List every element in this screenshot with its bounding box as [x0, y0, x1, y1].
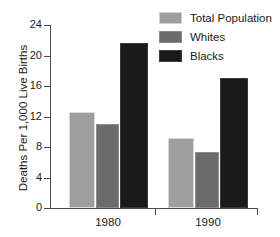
- y-tick-label-16: 16: [0, 79, 42, 91]
- x-tick-mid: [155, 209, 156, 215]
- bar-1980-whites: [96, 124, 119, 208]
- y-tick-label-8: 8: [0, 140, 42, 152]
- y-tick-20: [44, 56, 51, 57]
- legend-label-total-population: Total Population: [190, 12, 272, 24]
- bar-chart: Deaths Per 1,000 Live Births 24 20 16 12…: [0, 0, 280, 237]
- y-tick-16: [44, 86, 51, 87]
- y-tick-8: [44, 147, 51, 148]
- legend-item-blacks: Blacks: [159, 46, 272, 65]
- bar-1990-blacks: [220, 78, 248, 208]
- y-tick-label-24: 24: [0, 18, 42, 30]
- x-tick-right: [257, 209, 258, 215]
- legend-swatch-icon-total-population: [159, 12, 182, 24]
- legend-label-whites: Whites: [190, 31, 225, 43]
- legend-item-total-population: Total Population: [159, 8, 272, 27]
- bar-1990-whites: [195, 152, 219, 208]
- y-tick-label-12: 12: [0, 110, 42, 122]
- y-tick-24: [44, 25, 51, 26]
- y-tick-12: [44, 117, 51, 118]
- x-axis-line: [50, 208, 258, 209]
- bar-1980-blacks: [120, 43, 148, 208]
- x-tick-label-1980: 1980: [78, 216, 138, 228]
- y-tick-label-0: 0: [0, 201, 42, 213]
- y-tick-label-20: 20: [0, 49, 42, 61]
- legend-label-blacks: Blacks: [190, 50, 224, 62]
- x-tick-label-1990: 1990: [178, 216, 238, 228]
- legend: Total Population Whites Blacks: [159, 8, 272, 65]
- bar-1980-total-population: [69, 112, 95, 208]
- legend-swatch-icon-whites: [159, 31, 182, 43]
- bar-1990-total-population: [168, 138, 194, 208]
- legend-swatch-icon-blacks: [159, 50, 182, 62]
- y-tick-4: [44, 178, 51, 179]
- legend-item-whites: Whites: [159, 27, 272, 46]
- y-tick-0: [44, 208, 51, 209]
- y-tick-label-4: 4: [0, 171, 42, 183]
